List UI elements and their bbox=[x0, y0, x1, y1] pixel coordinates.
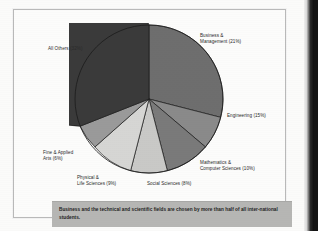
pie-label-fine-applied-arts: Fine & Applied Arts (6%) bbox=[43, 150, 73, 162]
pie-label-business-management: Business & Management (21%) bbox=[200, 33, 241, 45]
figure-caption-text: Business and the technical and scientifi… bbox=[59, 206, 287, 221]
pie-chart-figure: Business & Management (21%) Engineering … bbox=[14, 10, 285, 217]
pie-label-social-sciences: Social Sciences (8%) bbox=[147, 181, 191, 187]
pie-chart bbox=[69, 23, 229, 175]
figure-frame: Business & Management (21%) Engineering … bbox=[13, 9, 286, 218]
scanned-page: Business & Management (21%) Engineering … bbox=[0, 0, 304, 231]
page-edge-dark-band bbox=[314, 0, 318, 231]
pie-label-engineering: Engineering (15%) bbox=[227, 113, 266, 119]
pie-label-all-others: All Others (32%) bbox=[48, 46, 83, 52]
figure-caption-box: Business and the technical and scientifi… bbox=[52, 201, 292, 227]
pie-svg bbox=[69, 23, 229, 175]
pie-label-math-computer-sciences: Mathematics & Computer Sciences (10%) bbox=[200, 160, 255, 172]
pie-label-physical-life-sciences: Physical & Life Sciences (9%) bbox=[77, 175, 116, 187]
